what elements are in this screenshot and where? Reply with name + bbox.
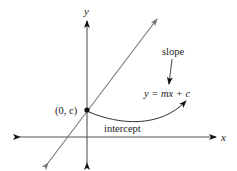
y-axis-label: y <box>83 5 89 17</box>
slope-intercept-diagram: y x (0, c) slope y = mx + c intercept <box>0 0 237 171</box>
equation-label: y = mx + c <box>143 88 191 99</box>
graph-line <box>48 19 157 163</box>
slope-arrow <box>169 59 172 84</box>
intercept-point <box>84 107 89 112</box>
point-label: (0, c) <box>55 105 78 117</box>
intercept-label: intercept <box>104 123 141 134</box>
x-axis-label: x <box>220 131 226 143</box>
intercept-curve-arrow <box>89 101 186 122</box>
slope-label: slope <box>162 46 185 57</box>
